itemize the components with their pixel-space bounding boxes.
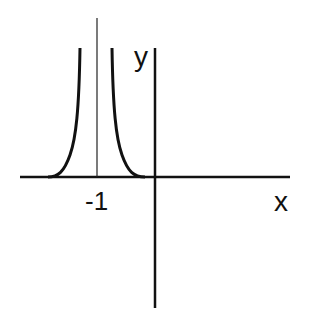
curve-left-branch (48, 48, 80, 177)
x-tick-label-minus-one: -1 (85, 188, 108, 214)
chart-canvas (0, 0, 309, 324)
x-axis-label: x (274, 188, 288, 216)
y-axis-label: y (134, 43, 148, 71)
